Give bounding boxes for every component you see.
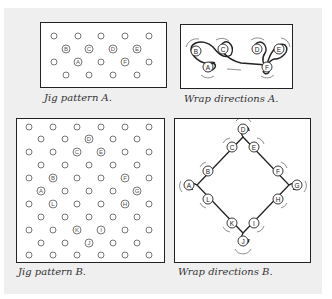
wrap-a-caption: Wrap directions A. (184, 93, 278, 104)
svg-text:D: D (87, 136, 92, 142)
wrap-directions-b: D CE BF AG LH KI J (174, 118, 311, 263)
svg-text:I: I (100, 227, 102, 233)
svg-text:F: F (276, 168, 280, 175)
svg-text:A: A (187, 182, 192, 189)
svg-text:E: E (277, 46, 282, 53)
svg-text:F: F (123, 59, 127, 65)
svg-text:B: B (51, 175, 55, 181)
svg-text:C: C (230, 144, 235, 151)
jig-pattern-b: D CE BF AG LH KI J (16, 118, 165, 263)
wrap-b-diagram: D CE BF AG LH KI J (175, 119, 312, 264)
svg-text:D: D (255, 46, 260, 53)
svg-text:F: F (123, 175, 127, 181)
jig-b-caption: Jig pattern B. (18, 266, 86, 277)
svg-text:F: F (265, 64, 269, 71)
svg-text:A: A (39, 188, 43, 194)
jig-a-caption: Jig pattern A. (44, 92, 112, 103)
svg-text:D: D (111, 46, 116, 52)
svg-text:L: L (206, 196, 210, 203)
wrap-directions-a: BAC DEF (180, 24, 293, 89)
svg-text:J: J (88, 240, 91, 246)
svg-text:C: C (75, 149, 80, 155)
svg-text:C: C (221, 46, 226, 53)
jig-pattern-a: BCDE AF (40, 22, 167, 88)
svg-text:B: B (206, 168, 210, 175)
svg-text:H: H (123, 201, 127, 207)
svg-text:H: H (276, 196, 281, 203)
jig-b-pegs: D CE BF AG LH KI J (17, 119, 166, 264)
svg-text:E: E (252, 144, 257, 151)
svg-text:E: E (135, 46, 139, 52)
svg-text:I: I (253, 220, 255, 227)
svg-text:K: K (230, 220, 235, 227)
wrap-b-caption: Wrap directions B. (178, 266, 273, 277)
svg-text:E: E (99, 149, 103, 155)
svg-text:L: L (51, 201, 55, 207)
svg-text:C: C (87, 46, 92, 52)
wrap-a-diagram: BAC DEF (181, 25, 294, 90)
svg-text:B: B (194, 48, 198, 55)
svg-text:G: G (294, 182, 299, 189)
svg-text:G: G (135, 188, 140, 194)
jig-a-pegs: BCDE AF (41, 23, 168, 89)
svg-text:A: A (206, 64, 211, 71)
svg-text:K: K (75, 227, 79, 233)
svg-text:J: J (241, 238, 244, 245)
svg-text:A: A (76, 59, 80, 65)
svg-text:B: B (64, 46, 68, 52)
svg-text:D: D (241, 126, 246, 133)
